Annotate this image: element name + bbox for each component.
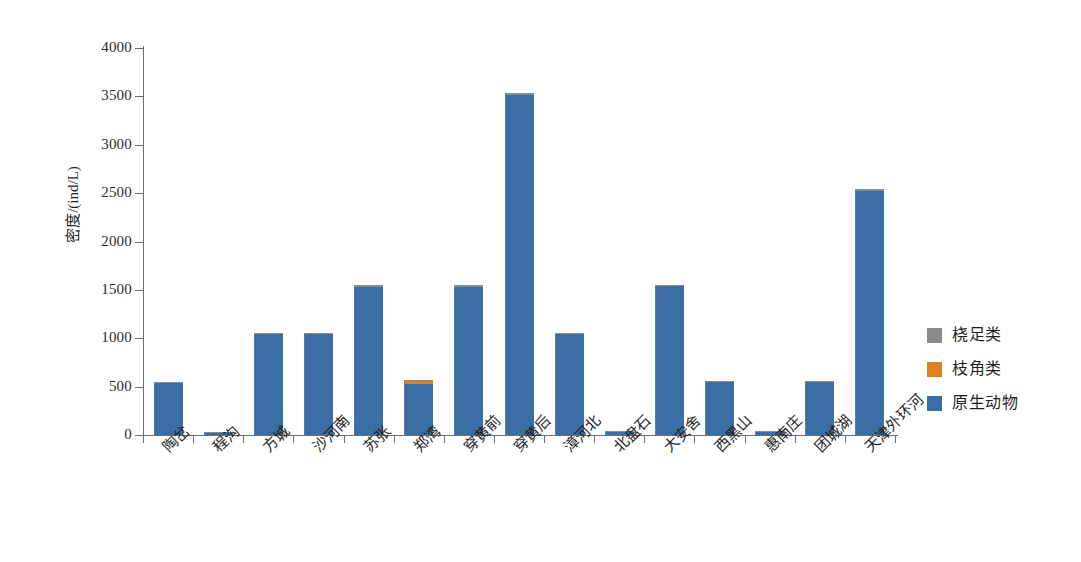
y-axis-label-1000: 1000 xyxy=(46,330,132,345)
bar-天津外环河[interactable] xyxy=(855,189,884,435)
bar-穿黄前[interactable] xyxy=(454,285,483,435)
bar-segment-原生动物 xyxy=(555,334,584,435)
x-axis-tick xyxy=(644,435,645,443)
bar-segment-原生动物 xyxy=(505,95,534,435)
x-axis-tick xyxy=(494,435,495,443)
x-axis-tick xyxy=(394,435,395,443)
bar-segment-原生动物 xyxy=(354,287,383,436)
legend-item-原生动物[interactable]: 原生动物 xyxy=(927,386,1072,420)
y-axis-label-1500: 1500 xyxy=(46,282,132,297)
bar-segment-原生动物 xyxy=(454,287,483,436)
x-axis-tick xyxy=(745,435,746,443)
bar-穿黄后[interactable] xyxy=(505,93,534,435)
x-axis-tick xyxy=(845,435,846,443)
legend-label: 枝角类 xyxy=(952,361,1002,377)
x-axis-tick xyxy=(444,435,445,443)
x-axis-tick xyxy=(143,435,144,443)
legend-swatch-icon xyxy=(927,396,942,411)
bar-segment-原生动物 xyxy=(655,286,684,435)
y-axis-label-3500: 3500 xyxy=(46,88,132,103)
bar-segment-原生动物 xyxy=(855,191,884,435)
x-axis-tick xyxy=(344,435,345,443)
x-axis-tick xyxy=(243,435,244,443)
bar-苏张[interactable] xyxy=(354,285,383,435)
x-axis-tick xyxy=(293,435,294,443)
y-axis-label-0: 0 xyxy=(46,427,132,442)
bar-大安舍[interactable] xyxy=(655,285,684,435)
legend-label: 原生动物 xyxy=(952,395,1018,411)
y-axis-label-2500: 2500 xyxy=(46,185,132,200)
y-axis-label-500: 500 xyxy=(46,379,132,394)
legend-swatch-icon xyxy=(927,362,942,377)
bar-方城[interactable] xyxy=(254,333,283,435)
legend-label: 桡足类 xyxy=(952,327,1002,343)
bar-漳河北[interactable] xyxy=(555,333,584,435)
bar-segment-原生动物 xyxy=(304,334,333,435)
x-axis-tick xyxy=(795,435,796,443)
y-axis-label-4000: 4000 xyxy=(46,40,132,55)
bar-series-container xyxy=(143,48,895,435)
chart-legend: 桡足类枝角类原生动物 xyxy=(927,318,1072,420)
bar-chart: 密度/(ind/L) 05001000150020002500300035004… xyxy=(0,0,1081,562)
bar-沙河南[interactable] xyxy=(304,333,333,435)
y-axis-label-3000: 3000 xyxy=(46,137,132,152)
x-axis-tick xyxy=(694,435,695,443)
legend-item-枝角类[interactable]: 枝角类 xyxy=(927,352,1072,386)
x-axis-tick xyxy=(895,435,896,443)
x-axis-tick xyxy=(193,435,194,443)
bar-segment-原生动物 xyxy=(254,334,283,435)
x-axis-tick xyxy=(544,435,545,443)
y-axis-label-2000: 2000 xyxy=(46,234,132,249)
y-axis-tick-labels: 05001000150020002500300035004000 xyxy=(42,0,132,562)
x-axis-tick xyxy=(594,435,595,443)
legend-item-桡足类[interactable]: 桡足类 xyxy=(927,318,1072,352)
legend-swatch-icon xyxy=(927,328,942,343)
